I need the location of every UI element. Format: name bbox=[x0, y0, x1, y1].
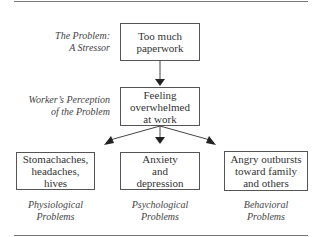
outcome-label-physiological: Physiological Problems bbox=[16, 199, 95, 223]
outcome-label-line2: Problems bbox=[224, 211, 308, 223]
outcome-label-behavioral: Behavioral Problems bbox=[224, 199, 308, 223]
outcome-label-line2: Problems bbox=[120, 211, 200, 223]
outcome-box-text: Angry outbursts toward family and others bbox=[228, 153, 304, 189]
bottom-rule bbox=[14, 235, 308, 236]
outcome-label-line2: Problems bbox=[16, 211, 95, 223]
outcome-box-text: Stomachaches, headaches, hives bbox=[19, 153, 92, 189]
outcome-label-psychological: Psychological Problems bbox=[120, 199, 200, 223]
outcome-label-line1: Behavioral bbox=[224, 199, 308, 211]
outcome-label-line1: Psychological bbox=[120, 199, 200, 211]
outcome-box-physiological: Stomachaches, headaches, hives bbox=[16, 152, 95, 190]
outcome-box-text: Anxiety and depression bbox=[135, 153, 185, 189]
outcome-box-psychological: Anxiety and depression bbox=[120, 152, 200, 190]
outcome-box-behavioral: Angry outbursts toward family and others bbox=[224, 151, 308, 191]
outcome-label-line1: Physiological bbox=[16, 199, 95, 211]
